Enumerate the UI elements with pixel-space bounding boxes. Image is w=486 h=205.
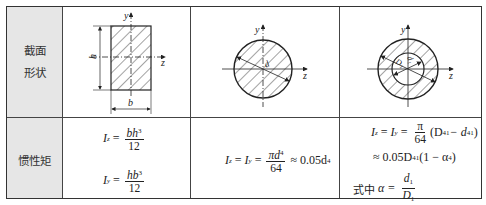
iy-numerator: hb	[127, 169, 139, 181]
circle-denominator: 64	[268, 162, 284, 174]
hollow-fraction: π 64	[412, 120, 428, 145]
alpha-num-sub: 1	[409, 178, 413, 186]
svg-text:h: h	[87, 54, 98, 59]
svg-text:y: y	[123, 10, 129, 21]
svg-text:b: b	[128, 97, 133, 108]
iz-numerator: bh	[127, 127, 139, 139]
iz-exponent: 3	[138, 127, 142, 135]
iy-subscript: y	[107, 177, 110, 185]
circle-fraction: πd4 64	[266, 147, 285, 174]
iz-subscript: z	[107, 135, 110, 143]
hollow-inertia-formula: Iz = Iy = π 64 (D41 − d41)	[371, 120, 478, 145]
hollow-circle-section-figure: y z D₁ d₁	[367, 24, 453, 107]
iz-subscript: z	[229, 157, 232, 165]
iy-exponent: 3	[138, 169, 142, 177]
circle-approximation: ≈ 0.05d	[290, 153, 327, 168]
approx-close: )	[452, 150, 456, 165]
svg-text:z: z	[448, 70, 453, 81]
inner-diameter-term: − d	[450, 125, 467, 140]
alpha-symbol: α =	[378, 181, 395, 196]
hollow-approx-formula: ≈ 0.05D41(1 − α4)	[373, 150, 456, 165]
svg-text:y: y	[400, 24, 406, 35]
alpha-denominator: D	[402, 189, 410, 201]
where-label: 式中	[353, 181, 375, 197]
solid-circle-section-figure: y z d	[222, 24, 307, 107]
row-header-inertia-label: 惯性矩	[7, 150, 62, 172]
close-paren: )	[474, 125, 478, 140]
circle-approx-exponent: 4	[327, 157, 331, 165]
svg-text:z: z	[302, 70, 307, 81]
hollow-denominator: 64	[412, 133, 428, 145]
alpha-fraction: d1 D1	[400, 172, 416, 205]
row-divider	[7, 117, 481, 118]
row-header-inertia: 惯性矩	[7, 150, 62, 172]
iy-subscript: y	[395, 129, 398, 137]
approx-rest: (1 − α	[419, 150, 448, 165]
approx-prefix: ≈ 0.05D	[373, 150, 412, 165]
svg-text:z: z	[160, 57, 165, 68]
hollow-numerator: π	[415, 120, 425, 133]
section-figures: y z h b y z d y z D₁ d₁	[7, 7, 483, 117]
rect-iy-fraction: hb3 12	[125, 167, 144, 194]
iz-subscript: z	[375, 129, 378, 137]
rect-iz-formula: Iz = bh3 12	[103, 125, 146, 152]
iy-denominator: 12	[127, 182, 143, 194]
section-properties-table: 截面 形状 惯性矩 y	[6, 6, 482, 199]
alpha-den-sub: 1	[411, 195, 415, 203]
circle-numerator: πd	[268, 149, 280, 161]
rect-iy-formula: Iy = hb3 12	[103, 167, 146, 194]
svg-text:y: y	[254, 24, 260, 35]
circle-inertia-formula: Iz = Iy = πd4 64 ≈ 0.05d4	[225, 147, 331, 174]
rectangle-section-figure: y z h b	[87, 10, 165, 114]
iy-subscript: y	[249, 157, 252, 165]
circle-exponent: 4	[280, 149, 284, 157]
rect-iz-fraction: bh3 12	[125, 125, 144, 152]
alpha-definition: 式中 α = d1 D1	[353, 172, 418, 205]
iz-denominator: 12	[126, 140, 142, 152]
outer-diameter-term: (D	[430, 125, 443, 140]
